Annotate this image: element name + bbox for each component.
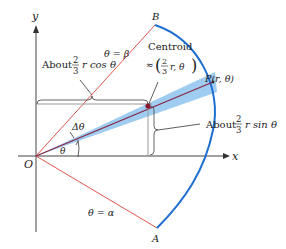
cos-frac-num: 2 [73,55,78,65]
centroid-paren-open: ( [155,56,161,75]
sin-frac-num: 2 [236,114,241,124]
cos-bracket [37,96,148,104]
cos-annotation-prefix: About [41,59,72,70]
cos-frac-den: 3 [73,66,78,76]
theta-angle-arrow [78,140,79,157]
centroid-point [145,103,150,108]
x-axis-label: x [232,150,239,163]
alpha-ray-label: θ = α [88,207,115,218]
sin-frac-den: 3 [236,125,241,135]
ray-beta [36,25,155,156]
cos-annotation-suffix: r cos θ [82,59,116,70]
point-P-label: P(r, θ) [204,73,234,84]
sin-annotation-suffix: r sin θ [245,119,277,130]
shaded-wedge [36,72,217,156]
y-axis-label: y [31,10,39,23]
point-B-label: B [151,11,159,22]
centroid-frac-den: 3 [162,67,167,76]
centroid-frac-num: 2 [162,57,167,66]
y-axis-arrow-icon [33,25,39,33]
sin-leader [158,124,200,130]
theta-label: θ [60,146,66,156]
centroid-approx: ≈ [146,60,154,70]
cos-leader [80,80,92,95]
centroid-paren-close: ) [191,56,197,75]
polar-centroid-diagram: y x O B A P(r, θ) θ = β θ = α Centroid ≈… [0,0,286,249]
point-A-label: A [151,233,159,244]
origin-label: O [24,158,33,171]
centroid-rest: r, θ [170,62,185,72]
centroid-title: Centroid [148,41,193,52]
sin-annotation-prefix: About [205,119,236,130]
x-axis-arrow-icon [223,153,230,159]
delta-theta-label: Δθ [71,121,85,132]
radius-line-OP [36,82,213,156]
beta-ray-label: θ = β [104,48,130,59]
